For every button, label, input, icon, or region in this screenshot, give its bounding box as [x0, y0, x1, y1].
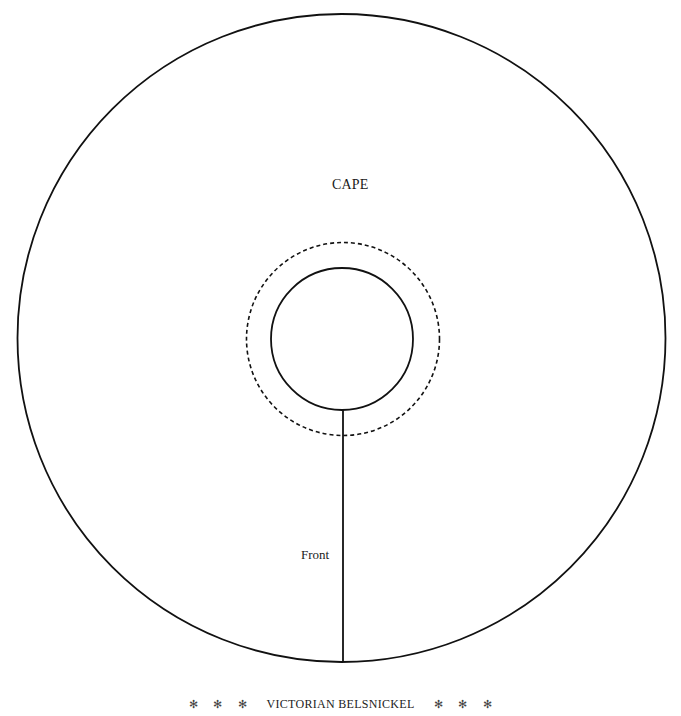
- pattern-footer: ✻ ✻ ✻ VICTORIAN BELSNICKEL ✻ ✻ ✻: [0, 697, 681, 712]
- snowflake-icon: ✻: [189, 698, 198, 710]
- pattern-title: VICTORIAN BELSNICKEL: [266, 697, 414, 711]
- snowflake-icon: ✻: [434, 698, 443, 710]
- front-opening-label: Front: [301, 547, 329, 563]
- snowflake-icon: ✻: [458, 698, 467, 710]
- seam-allowance-dashed-circle: [247, 243, 440, 436]
- outer-cape-edge: [18, 14, 666, 662]
- cape-piece-label: CAPE: [332, 177, 369, 193]
- neck-opening-circle: [271, 268, 413, 410]
- snowflake-icon: ✻: [213, 698, 222, 710]
- snowflake-icon: ✻: [483, 698, 492, 710]
- cape-pattern-diagram: [0, 0, 681, 716]
- snowflake-icon: ✻: [238, 698, 247, 710]
